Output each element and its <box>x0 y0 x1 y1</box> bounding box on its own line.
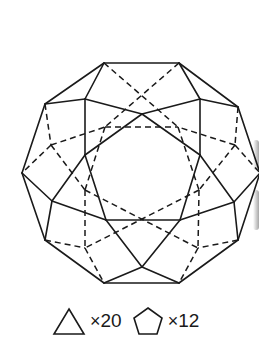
face-count-legend: ×20 ×12 <box>52 303 209 339</box>
visible-edge <box>45 63 104 104</box>
visible-edge <box>85 155 106 220</box>
hidden-edge <box>198 190 199 248</box>
visible-edge <box>142 99 200 114</box>
hidden-edge <box>178 127 235 145</box>
visible-edge <box>200 155 234 202</box>
legend-item-pentagons: ×12 <box>132 306 200 336</box>
edge-shadow <box>253 140 259 170</box>
pentagon-count: 12 <box>178 310 199 331</box>
visible-edge <box>104 267 142 283</box>
hidden-edge <box>179 248 198 283</box>
visible-edge <box>142 114 200 155</box>
hidden-edge <box>45 104 51 145</box>
hidden-edge <box>85 248 104 283</box>
visible-edge <box>142 267 179 283</box>
hidden-edge <box>51 145 85 190</box>
hidden-edge <box>178 127 199 190</box>
hidden-edge <box>199 145 235 190</box>
legend-item-triangles: ×20 <box>52 306 122 336</box>
visible-edge <box>180 155 200 220</box>
visible-edge <box>52 155 85 201</box>
visible-edge <box>106 220 142 267</box>
visible-edge <box>234 202 238 240</box>
visible-edge <box>85 114 142 155</box>
visible-edge <box>52 201 106 220</box>
visible-edge <box>179 63 200 99</box>
edge-shadow <box>253 190 259 230</box>
triangle-count: 20 <box>101 310 122 331</box>
multiply-sign: × <box>168 311 179 331</box>
multiply-sign: × <box>90 311 101 331</box>
pentagon-icon <box>132 306 164 336</box>
visible-edge <box>85 99 142 114</box>
visible-edge <box>142 220 180 267</box>
visible-edge <box>180 202 234 220</box>
hidden-edge <box>51 127 105 145</box>
visible-edge <box>85 63 104 99</box>
triangle-icon <box>52 306 86 336</box>
hidden-edge <box>235 107 238 145</box>
visible-edge <box>45 201 52 240</box>
hidden-edge <box>85 127 105 190</box>
icosidodecahedron-diagram <box>0 0 259 341</box>
